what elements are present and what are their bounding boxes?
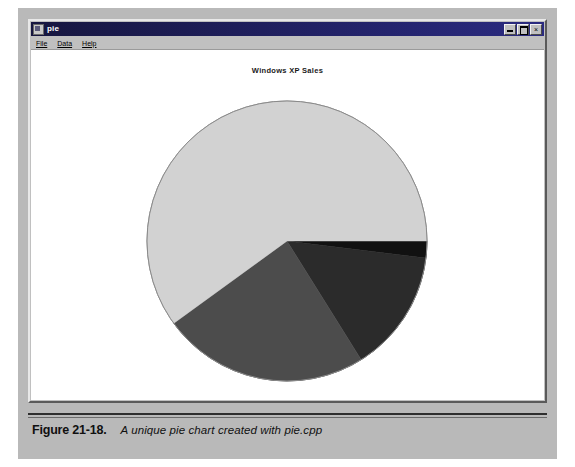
menu-bar: File Data Help	[31, 37, 544, 50]
menu-item-help-label: Help	[82, 40, 96, 47]
figure-page: pie × File Data	[0, 0, 575, 467]
pie-chart	[31, 50, 544, 400]
menu-item-data[interactable]: Data	[56, 39, 73, 48]
application-window: pie × File Data	[28, 19, 547, 403]
pie-slice-group	[147, 101, 427, 381]
pie-chart-svg	[31, 50, 544, 400]
minimize-icon	[507, 30, 513, 32]
menu-item-help[interactable]: Help	[81, 39, 97, 48]
maximize-icon	[520, 26, 528, 35]
figure-caption: Figure 21-18. A unique pie chart created…	[28, 413, 547, 449]
figure-panel: pie × File Data	[18, 8, 557, 459]
menu-item-data-label: Data	[57, 40, 72, 47]
close-icon: ×	[531, 25, 541, 34]
window-title: pie	[47, 25, 504, 33]
caption-label: Figure 21-18.	[32, 423, 107, 437]
caption-rule-primary	[28, 413, 547, 415]
app-icon	[33, 24, 44, 35]
chart-client-area: Windows XP Sales	[31, 50, 544, 400]
caption-description: A unique pie chart created with pie.cpp	[121, 424, 323, 436]
window-controls: ×	[504, 24, 543, 35]
maximize-button[interactable]	[517, 24, 529, 35]
minimize-button[interactable]	[504, 24, 516, 35]
close-button[interactable]: ×	[530, 24, 542, 35]
menu-item-file-label: File	[36, 40, 47, 47]
title-bar[interactable]: pie ×	[31, 22, 544, 36]
caption-rule-secondary	[28, 417, 547, 418]
caption-text-row: Figure 21-18. A unique pie chart created…	[32, 423, 322, 437]
menu-item-file[interactable]: File	[35, 39, 48, 48]
